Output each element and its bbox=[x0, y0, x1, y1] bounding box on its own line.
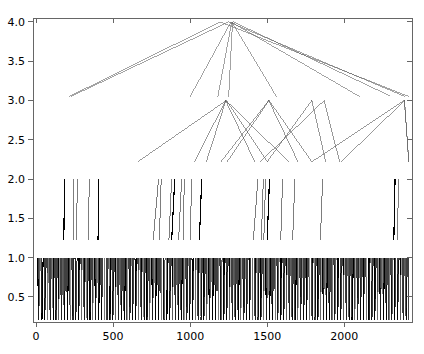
level-3-right-leg bbox=[405, 100, 409, 161]
y-tick-label: 2.5 bbox=[8, 134, 26, 147]
level-2-stroke bbox=[261, 179, 263, 240]
y-tick-label: 1.0 bbox=[8, 252, 26, 265]
chart-root: 0.51.01.52.02.53.03.54.0 050010001500200… bbox=[0, 0, 424, 354]
level-1-stroke bbox=[218, 258, 219, 321]
level-1-stroke bbox=[309, 258, 310, 321]
level-2-stroke bbox=[153, 179, 158, 240]
level-1-series bbox=[38, 258, 409, 321]
level-1-stroke bbox=[195, 258, 196, 321]
level-1-stroke bbox=[38, 258, 39, 321]
y-tick-label: 4.0 bbox=[8, 16, 26, 29]
level-3-right-leg bbox=[226, 100, 289, 161]
x-tick-label: 1500 bbox=[253, 330, 281, 343]
level-3-right-leg bbox=[269, 100, 298, 161]
level-2-stroke bbox=[293, 179, 295, 240]
level-2-stroke bbox=[64, 179, 65, 240]
level-2-series bbox=[64, 179, 399, 240]
level-1-stroke bbox=[150, 258, 151, 321]
level-1-stroke bbox=[332, 258, 333, 321]
level-3-right-leg bbox=[226, 100, 267, 161]
level-3-right-leg bbox=[312, 100, 326, 161]
level-2-stroke bbox=[172, 179, 175, 240]
level-2-stroke bbox=[281, 179, 283, 240]
level-4-right-leg bbox=[229, 22, 405, 97]
y-axis-tick-labels: 0.51.01.52.02.53.03.54.0 bbox=[8, 16, 26, 304]
level-1-stroke bbox=[207, 258, 208, 321]
level-1-stroke bbox=[184, 258, 185, 321]
y-tick-label: 3.5 bbox=[8, 55, 26, 68]
level-2-stroke bbox=[394, 179, 395, 240]
level-3-right-leg bbox=[226, 100, 255, 161]
level-2-stroke bbox=[183, 179, 184, 240]
level-1-stroke bbox=[366, 258, 367, 321]
y-tick-label: 0.5 bbox=[8, 291, 26, 304]
level-2-stroke bbox=[179, 179, 182, 240]
level-3-left-leg bbox=[260, 100, 324, 161]
level-3-left-leg bbox=[227, 100, 269, 161]
level-2-stroke bbox=[88, 179, 89, 240]
level-2-stroke bbox=[398, 179, 399, 240]
level-3-left-leg bbox=[138, 100, 227, 161]
level-1-stroke bbox=[389, 258, 390, 321]
level-1-stroke bbox=[355, 258, 356, 321]
level-1-stroke bbox=[48, 258, 49, 321]
level-1-stroke bbox=[161, 258, 162, 321]
level-3-left-leg bbox=[312, 100, 404, 161]
y-axis-ticks bbox=[28, 22, 412, 297]
x-tick-label: 500 bbox=[103, 330, 124, 343]
level-2-stroke bbox=[76, 179, 77, 240]
level-1-stroke bbox=[127, 258, 128, 321]
x-axis-tick-labels: 0500100015002000 bbox=[33, 330, 359, 343]
level-1-stroke bbox=[378, 258, 379, 321]
level-1-stroke bbox=[298, 258, 299, 321]
level-1-stroke bbox=[104, 258, 105, 321]
level-1-stroke bbox=[138, 258, 139, 321]
x-tick-label: 1000 bbox=[176, 330, 204, 343]
y-tick-label: 2.0 bbox=[8, 173, 26, 186]
level-3-left-leg bbox=[221, 100, 269, 161]
level-2-stroke bbox=[73, 179, 74, 240]
level-4-right-leg bbox=[233, 22, 391, 97]
level-2-stroke bbox=[169, 179, 172, 240]
level-3-series bbox=[138, 100, 409, 161]
level-2-stroke bbox=[267, 179, 269, 240]
level-2-stroke bbox=[253, 179, 258, 240]
y-tick-label: 1.5 bbox=[8, 212, 26, 225]
level-4-right-leg bbox=[231, 22, 360, 97]
y-tick-label: 3.0 bbox=[8, 94, 26, 107]
level-2-stroke bbox=[190, 179, 192, 240]
x-tick-label: 2000 bbox=[330, 330, 358, 343]
level-4-right-leg bbox=[232, 22, 277, 97]
level-1-stroke bbox=[93, 258, 94, 321]
level-3-left-leg bbox=[206, 100, 226, 161]
level-4-left-leg bbox=[229, 22, 233, 97]
level-1-stroke bbox=[321, 258, 322, 321]
level-4-left-leg bbox=[71, 22, 229, 97]
level-4-series bbox=[69, 22, 409, 97]
level-3-left-leg bbox=[195, 100, 226, 161]
level-2-stroke bbox=[199, 179, 201, 240]
level-1-stroke bbox=[275, 258, 276, 321]
level-4-left-leg bbox=[69, 22, 220, 97]
level-1-stroke bbox=[70, 258, 71, 321]
level-4-right-leg bbox=[220, 22, 409, 97]
level-3-right-leg bbox=[324, 100, 339, 161]
level-2-stroke bbox=[98, 179, 99, 240]
level-2-stroke bbox=[320, 179, 322, 240]
scatter-line-chart: 0.51.01.52.02.53.03.54.0 050010001500200… bbox=[0, 0, 424, 354]
x-tick-label: 0 bbox=[33, 330, 40, 343]
level-3-left-leg bbox=[341, 100, 404, 161]
level-2-stroke bbox=[264, 179, 266, 240]
level-2-stroke bbox=[159, 179, 161, 240]
